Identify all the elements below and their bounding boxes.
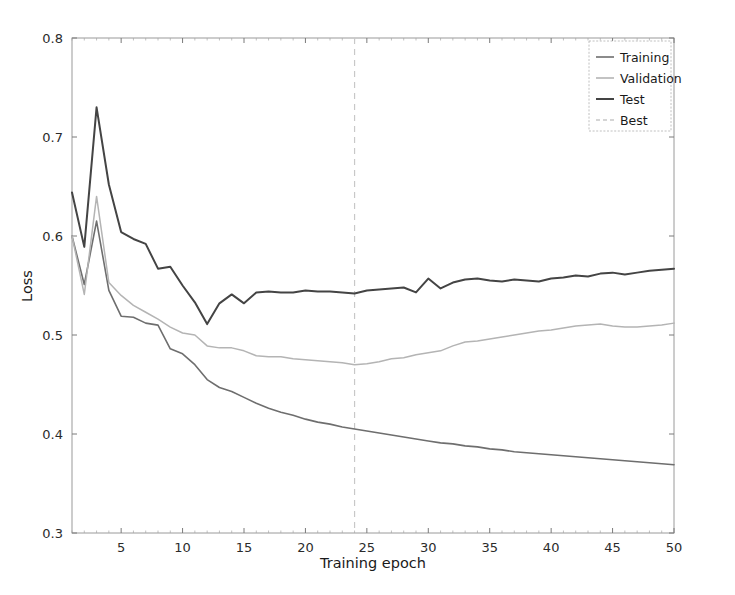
legend-label-best: Best — [620, 113, 648, 128]
loss-curve-chart: 5101520253035404550 0.30.40.50.60.70.8 T… — [0, 0, 735, 595]
figure-canvas: 5101520253035404550 0.30.40.50.60.70.8 T… — [0, 0, 735, 595]
x-tick-label: 10 — [174, 540, 191, 555]
y-tick-label: 0.8 — [42, 31, 63, 46]
y-axis-title: Loss — [19, 270, 35, 302]
x-tick-label: 15 — [236, 540, 253, 555]
x-tick-label: 45 — [604, 540, 621, 555]
y-tick-label: 0.6 — [42, 229, 63, 244]
y-tick-label: 0.3 — [42, 526, 63, 541]
y-tick-label: 0.5 — [42, 328, 63, 343]
x-tick-label: 50 — [666, 540, 683, 555]
legend-label-validation: Validation — [620, 71, 682, 86]
x-tick-label: 20 — [297, 540, 314, 555]
x-tick-label: 5 — [117, 540, 125, 555]
y-tick-label: 0.7 — [42, 130, 63, 145]
plot-background — [72, 38, 674, 533]
chart-legend: TrainingValidationTestBest — [589, 41, 682, 131]
x-tick-label: 40 — [543, 540, 560, 555]
x-axis-title: Training epoch — [319, 555, 426, 571]
y-tick-label: 0.4 — [42, 427, 63, 442]
x-tick-label: 30 — [420, 540, 437, 555]
legend-label-training: Training — [619, 50, 669, 65]
x-tick-label: 35 — [481, 540, 498, 555]
legend-label-test: Test — [619, 92, 645, 107]
x-tick-label: 25 — [359, 540, 376, 555]
